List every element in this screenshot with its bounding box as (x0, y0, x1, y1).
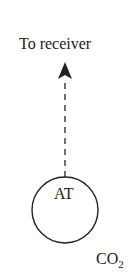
at-node-label: AT (54, 186, 74, 202)
co2-label: CO2 (96, 251, 124, 270)
to-receiver-label: To receiver (19, 36, 91, 52)
co2-main: CO (96, 250, 118, 267)
co2-subscript: 2 (118, 258, 124, 270)
dashed-arrow (58, 62, 72, 177)
arrowhead-icon (58, 62, 72, 79)
